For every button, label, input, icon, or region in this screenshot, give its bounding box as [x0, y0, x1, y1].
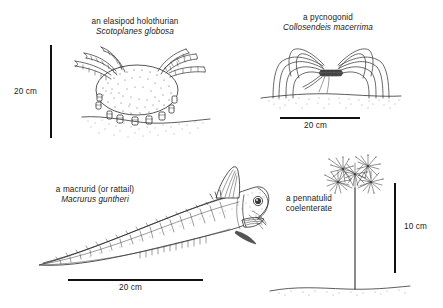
holothurian-scale-bar [50, 45, 52, 138]
holothurian-label: an elasipod holothurian Scotoplanes glob… [74, 17, 196, 37]
macrurid-drawing [30, 165, 275, 275]
holothurian-scale-label: 20 cm [14, 87, 37, 96]
deep-sea-fauna-figure: an elasipod holothurian Scotoplanes glob… [0, 0, 443, 308]
macrurid-scale-label: 20 cm [119, 283, 142, 292]
pycnogonid-scientific-name: Collosendeis macerrima [260, 23, 396, 33]
holothurian-drawing [70, 45, 220, 135]
pycnogonid-scale-label: 20 cm [304, 121, 327, 130]
macrurid-scale-bar [68, 279, 203, 281]
pycnogonid-common-name: a pycnogonid [260, 13, 396, 23]
holothurian-scientific-name: Scotoplanes globosa [74, 27, 196, 37]
pennatulid-scale-bar [394, 183, 396, 273]
holothurian-common-name: an elasipod holothurian [74, 17, 196, 27]
pennatulid-drawing [265, 155, 415, 295]
pycnogonid-label: a pycnogonid Collosendeis macerrima [260, 13, 396, 33]
pennatulid-scale-label: 10 cm [404, 222, 427, 231]
pycnogonid-drawing [255, 40, 405, 110]
pycnogonid-scale-bar [280, 117, 360, 119]
